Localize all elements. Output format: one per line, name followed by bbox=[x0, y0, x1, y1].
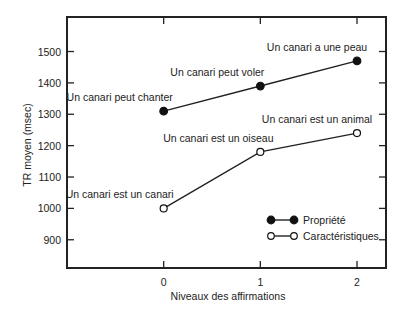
data-point bbox=[160, 205, 167, 212]
legend-marker bbox=[290, 216, 298, 224]
legend-item: Propriété bbox=[267, 214, 346, 226]
y-axis-title: TR moyen (msec) bbox=[21, 103, 33, 186]
legend: PropriétéCaractéristiques bbox=[267, 214, 379, 242]
point-label: Un canari peut voler bbox=[170, 66, 264, 78]
x-axis-title: Niveaux des affirmations bbox=[171, 290, 286, 302]
y-tick-label: 1100 bbox=[38, 171, 61, 183]
legend-marker bbox=[268, 233, 275, 240]
data-point bbox=[257, 82, 265, 90]
y-tick-label: 900 bbox=[43, 234, 61, 246]
x-tick-label: 0 bbox=[161, 276, 167, 288]
series-line-caracteristiques bbox=[164, 133, 357, 208]
y-tick-label: 1500 bbox=[38, 46, 62, 58]
point-label: Un canari est un animal bbox=[262, 113, 372, 125]
x-tick-label: 2 bbox=[354, 276, 360, 288]
y-tick-label: 1000 bbox=[38, 202, 62, 214]
x-tick-label: 1 bbox=[257, 276, 263, 288]
y-tick-label: 1300 bbox=[38, 108, 62, 120]
data-point bbox=[257, 148, 264, 155]
data-point bbox=[353, 57, 361, 65]
data-point bbox=[354, 130, 361, 137]
y-tick-label: 1200 bbox=[38, 140, 62, 152]
point-label: Un canari peut chanter bbox=[67, 91, 174, 103]
point-label: Un canari a une peau bbox=[267, 41, 368, 53]
point-label: Un canari est un canari bbox=[66, 188, 174, 200]
legend-marker bbox=[267, 216, 275, 224]
legend-label: Caractéristiques bbox=[303, 230, 379, 242]
legend-label: Propriété bbox=[303, 214, 346, 226]
point-label: Un canari est un oiseau bbox=[163, 132, 273, 144]
chart: 900100011001200130014001500 012 Un canar… bbox=[0, 0, 404, 314]
legend-marker bbox=[291, 233, 298, 240]
y-tick-label: 1400 bbox=[38, 77, 62, 89]
data-point bbox=[160, 107, 168, 115]
legend-item: Caractéristiques bbox=[268, 230, 379, 242]
